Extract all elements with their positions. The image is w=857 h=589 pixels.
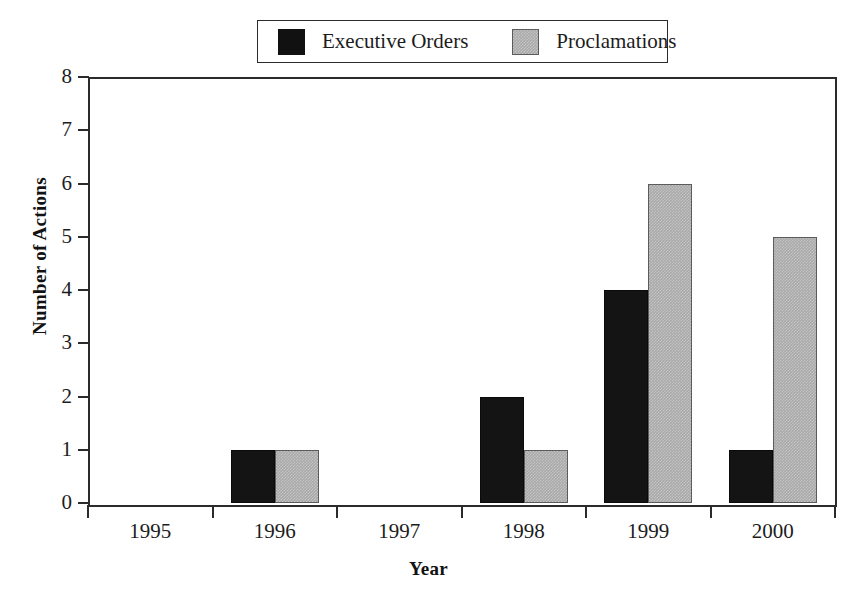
bar-executive-orders-1999[interactable] [604,290,648,503]
x-tick-label-1999: 1999 [586,521,711,542]
x-axis-title: Year [0,558,857,580]
bar-proclamations-2000[interactable] [773,237,817,503]
y-tick-label: 0 [18,492,72,513]
chart-legend: Executive Orders Proclamations [257,20,668,63]
x-tick-mark [212,505,214,518]
legend-entry-proclamations[interactable]: Proclamations [512,21,676,62]
black-square-swatch [278,29,305,55]
bar-executive-orders-2000[interactable] [729,450,773,503]
legend-label-executive-orders: Executive Orders [322,31,468,52]
bar-proclamations-1996[interactable] [275,450,319,503]
gray-square-swatch [512,29,539,55]
x-tick-label-1997: 1997 [337,521,462,542]
y-tick-label: 2 [18,386,72,407]
y-tick-label: 8 [18,66,72,87]
x-tick-mark [710,505,712,518]
bar-proclamations-1998[interactable] [524,450,568,503]
x-tick-mark [834,505,836,518]
x-tick-label-2000: 2000 [711,521,836,542]
y-tick-label: 1 [18,439,72,460]
x-tick-label-1995: 1995 [88,521,213,542]
bar-executive-orders-1998[interactable] [480,397,524,504]
legend-entry-executive-orders[interactable]: Executive Orders [278,21,468,62]
bar-proclamations-1999[interactable] [648,184,692,504]
x-tick-mark [87,505,89,518]
y-axis-title: Number of Actions [29,126,51,386]
x-tick-mark [585,505,587,518]
x-tick-mark [336,505,338,518]
bar-chart-figure: Executive Orders Proclamations Number of… [0,0,857,589]
x-tick-mark [461,505,463,518]
bar-executive-orders-1996[interactable] [231,450,275,503]
plot-area [88,77,837,507]
x-tick-label-1996: 1996 [213,521,338,542]
legend-label-proclamations: Proclamations [556,31,676,52]
x-tick-label-1998: 1998 [462,521,587,542]
